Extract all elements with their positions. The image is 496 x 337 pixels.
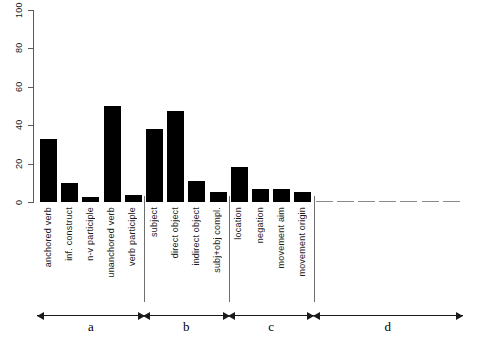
group-separator	[229, 196, 230, 302]
bar	[316, 201, 333, 202]
bar	[273, 189, 290, 202]
plot-area	[0, 0, 496, 202]
category-label: anchored verb	[43, 207, 53, 267]
category-label: verb participle	[127, 207, 137, 266]
bar	[400, 201, 417, 202]
bar	[210, 192, 227, 202]
bar	[231, 167, 248, 202]
category-label: indirect object	[191, 207, 201, 266]
category-label: subject	[149, 207, 159, 237]
y-axis-tick	[28, 202, 33, 203]
category-label: n-v participle	[85, 207, 95, 261]
group-span-arrow	[143, 315, 230, 316]
category-label: movement aim	[276, 207, 286, 268]
bar	[104, 106, 121, 202]
group-span-arrow	[313, 315, 463, 316]
bar	[167, 111, 184, 202]
group-separator	[144, 196, 145, 302]
bar	[294, 192, 311, 202]
bar	[337, 201, 354, 202]
category-label: movement origin	[297, 207, 307, 277]
bar	[358, 201, 375, 202]
bar	[422, 201, 439, 202]
group-span-arrow	[37, 315, 145, 316]
category-label: location	[233, 207, 243, 240]
category-label: inf. construct	[64, 207, 74, 261]
bar	[61, 183, 78, 202]
bar-chart: 020406080100 anchored verbinf. construct…	[0, 0, 496, 337]
bar	[82, 197, 99, 202]
category-label: subj+obj compl.	[212, 207, 222, 273]
bar	[40, 139, 57, 202]
category-label: negation	[255, 207, 265, 243]
bar	[252, 189, 269, 202]
group-label: d	[313, 319, 463, 335]
bar	[125, 195, 142, 202]
bar	[146, 129, 163, 202]
group-label: a	[37, 319, 145, 335]
group-separator	[314, 196, 315, 302]
group-label: c	[228, 319, 315, 335]
bar	[379, 201, 396, 202]
group-label: b	[143, 319, 230, 335]
group-span-arrow	[228, 315, 315, 316]
bar	[443, 201, 460, 202]
category-label: unanchored verb	[106, 207, 116, 278]
category-label: direct object	[170, 207, 180, 258]
bar	[188, 181, 205, 202]
